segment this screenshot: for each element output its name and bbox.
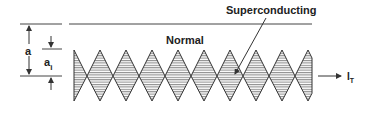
diamond: [139, 50, 165, 101]
label-normal: Normal: [166, 34, 204, 46]
half-diamond-left: [74, 50, 87, 101]
diamond: [113, 50, 139, 101]
label-ai: ai: [44, 56, 52, 72]
diamond: [191, 50, 217, 101]
diamond: [165, 50, 191, 101]
label-a: a: [25, 45, 32, 57]
label-current: IT: [347, 71, 355, 84]
diamond: [269, 50, 295, 101]
diamond: [217, 50, 243, 101]
diamond-partial: [295, 50, 312, 101]
label-superconducting: Superconducting: [226, 4, 316, 16]
superconducting-regions: [74, 50, 312, 101]
vortex-diagram: a ai Normal Superconducting IT: [0, 0, 370, 116]
diamond: [87, 50, 113, 101]
diamond: [243, 50, 269, 101]
